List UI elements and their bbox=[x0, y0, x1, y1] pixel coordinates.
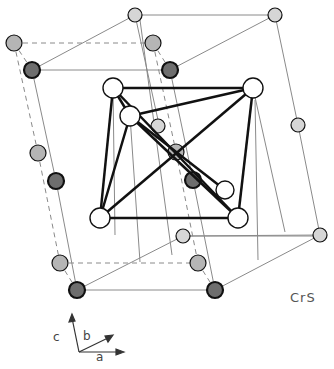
axis-c-label: c bbox=[53, 330, 60, 344]
octahedron-edges bbox=[100, 88, 253, 218]
axis-b-label: b bbox=[83, 329, 91, 343]
crystal-structure-diagram bbox=[0, 0, 334, 369]
atom-gray bbox=[190, 255, 206, 271]
atom-white bbox=[103, 78, 123, 98]
atom-dark bbox=[207, 282, 223, 298]
atom-dark bbox=[69, 282, 85, 298]
atom-gray bbox=[30, 145, 46, 161]
atom-white bbox=[216, 181, 234, 199]
atom-light bbox=[176, 229, 190, 243]
atoms-layer bbox=[6, 8, 327, 298]
atom-dark bbox=[162, 62, 178, 78]
atom-light bbox=[128, 8, 142, 22]
atom-dark bbox=[24, 62, 40, 78]
atom-white bbox=[243, 78, 263, 98]
axis-a-label: a bbox=[96, 350, 103, 364]
atom-gray bbox=[52, 255, 68, 271]
atom-white bbox=[120, 106, 140, 126]
atom-dark bbox=[48, 173, 64, 189]
atom-gray bbox=[6, 35, 22, 51]
atom-white bbox=[90, 208, 110, 228]
atom-light bbox=[291, 118, 305, 132]
atom-light bbox=[268, 8, 282, 22]
atom-white bbox=[228, 208, 248, 228]
axes-indicator bbox=[69, 314, 124, 355]
atom-light bbox=[313, 228, 327, 242]
atom-gray bbox=[145, 35, 161, 51]
compound-label: CrS bbox=[290, 290, 316, 305]
